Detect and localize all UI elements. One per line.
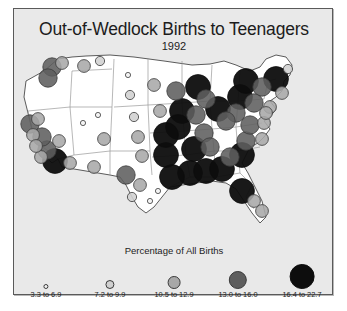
map-symbol [95, 56, 104, 65]
legend-item: 13.0 to 16.0 [206, 260, 270, 299]
map-symbol [217, 112, 235, 130]
legend-dot [290, 264, 315, 289]
map-symbol [201, 138, 219, 156]
map-symbol [283, 64, 292, 73]
map-symbol [187, 106, 205, 124]
map-symbol [95, 112, 100, 117]
legend-label: 16.4 to 22.7 [270, 290, 334, 299]
map-symbol [125, 90, 134, 99]
legend-item: 10.5 to 12.9 [142, 260, 206, 299]
legend-swatch [78, 260, 142, 290]
map-symbol [167, 82, 185, 100]
map-symbol [154, 123, 179, 148]
map-symbol [125, 72, 130, 77]
map-symbol [147, 198, 152, 203]
map-symbol [221, 148, 239, 166]
map-symbol [127, 192, 136, 201]
map-symbol [132, 131, 145, 144]
legend-dot [105, 280, 114, 289]
legend-dot [43, 284, 48, 289]
map-symbol [64, 157, 77, 170]
legend-label: 13.0 to 16.0 [206, 290, 270, 299]
map-symbol [136, 150, 149, 163]
legend-swatch [142, 260, 206, 290]
legend-title: Percentage of All Births [14, 245, 334, 256]
map-symbol [30, 140, 43, 153]
map-symbol [56, 57, 69, 70]
map-symbol [155, 188, 160, 193]
map-symbol [260, 107, 273, 120]
map-symbol [129, 112, 138, 121]
map-symbol [148, 79, 161, 92]
map-symbol [237, 132, 255, 150]
map-symbol [256, 205, 269, 218]
map-symbol [253, 78, 271, 96]
map-symbol [197, 90, 215, 108]
map-symbol [80, 120, 85, 125]
figure-root: Out-of-Wedlock Births to Teenagers 1992 [0, 0, 347, 311]
legend-swatch [206, 260, 270, 290]
map-symbol [241, 116, 259, 134]
map-symbol [88, 161, 101, 174]
legend-label: 3.3 to 6.9 [14, 290, 78, 299]
map-symbol [276, 87, 289, 100]
legend-label: 10.5 to 12.9 [142, 290, 206, 299]
legend: 3.3 to 6.97.2 to 9.910.5 to 12.913.0 to … [14, 259, 334, 299]
chart-title: Out-of-Wedlock Births to Teenagers [14, 19, 334, 40]
map-symbol [160, 165, 185, 190]
map-symbol [53, 135, 66, 148]
map-symbol [256, 133, 269, 146]
legend-item: 16.4 to 22.7 [270, 260, 334, 299]
us-map [14, 51, 334, 243]
legend-item: 7.2 to 9.9 [78, 260, 142, 299]
legend-swatch [14, 260, 78, 290]
figure-frame: Out-of-Wedlock Births to Teenagers 1992 [13, 8, 333, 295]
legend-label: 7.2 to 9.9 [78, 290, 142, 299]
map-symbol [32, 113, 45, 126]
legend-swatch [270, 260, 334, 290]
legend-item: 3.3 to 6.9 [14, 260, 78, 299]
map-symbol [98, 133, 111, 146]
us-map-svg [14, 51, 334, 243]
map-symbol [39, 69, 57, 87]
map-symbol [154, 105, 167, 118]
map-symbol [117, 166, 135, 184]
legend-dot [168, 276, 181, 289]
legend-dot [229, 271, 247, 289]
map-symbol [78, 60, 91, 73]
map-symbol [134, 179, 147, 192]
